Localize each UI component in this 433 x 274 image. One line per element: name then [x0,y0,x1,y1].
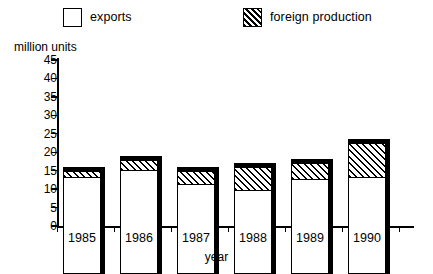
bar-segment-foreign-production [120,160,158,171]
y-tick-label: 0 [17,220,57,232]
y-tick-label: 20 [17,146,57,158]
chart-page: exports foreign production million units… [0,0,433,274]
y-axis-ticks: 454035302520151050 [0,0,57,274]
y-tick-label: 40 [17,72,57,84]
bar-shadow-top [120,156,162,160]
bar-shadow-top [234,163,276,167]
x-tick-label: 1986 [109,231,169,245]
bar-shadow-top [348,139,390,143]
x-tick-label: 1989 [280,231,340,245]
y-tick-label: 15 [17,165,57,177]
bar-shadow-top [177,167,219,171]
x-tick-label: 1985 [52,231,112,245]
y-tick-label: 10 [17,183,57,195]
bar-shadow-top [291,159,333,163]
bar-segment-foreign-production [291,163,329,180]
x-tick-label: 1987 [166,231,226,245]
x-axis-title: year [0,250,433,264]
bar-segment-foreign-production [63,171,101,178]
x-tick-label: 1988 [223,231,283,245]
y-tick-label: 25 [17,128,57,140]
bar-shadow-top [63,167,105,171]
y-tick-label: 35 [17,91,57,103]
x-tick-mark [399,226,400,232]
plot-area: 454035302520151050 198519861987198819891… [0,0,433,274]
bar-segment-foreign-production [177,171,215,186]
y-tick-label: 45 [17,54,57,66]
y-tick-label: 30 [17,109,57,121]
y-tick-label: 5 [17,202,57,214]
x-tick-label: 1990 [337,231,397,245]
bar-segment-foreign-production [348,143,386,178]
bar-segment-foreign-production [234,167,272,191]
